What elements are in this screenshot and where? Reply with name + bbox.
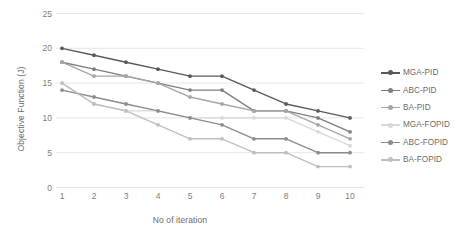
data-point [284,137,288,141]
y-tick-label: 25 [28,9,52,19]
series-abc-pid [60,60,352,133]
data-point [188,95,192,99]
data-point [188,88,192,92]
data-point [252,88,256,92]
data-point [316,123,320,127]
data-point [60,81,64,85]
data-point [284,116,288,120]
data-point [124,109,128,113]
data-point [92,102,96,106]
data-point [188,137,192,141]
data-point [348,137,352,141]
data-point [348,116,352,120]
data-point [220,74,224,78]
x-tick-label: 2 [82,191,106,201]
x-tick-label: 6 [210,191,234,201]
data-point [60,46,64,50]
legend-label: MGA-FOPID [403,120,450,129]
legend-item-ba-fopid[interactable]: BA-FOPID [381,151,450,168]
data-point [284,102,288,106]
legend-marker-icon [381,86,400,95]
series-line [62,83,350,167]
data-point [60,88,64,92]
x-tick-label: 10 [338,191,362,201]
y-tick-label: 5 [28,148,52,158]
legend-marker-icon [381,103,400,112]
data-point [92,74,96,78]
x-axis-title: No of iteration [0,215,360,225]
y-axis-title: Objective Function (J) [16,44,26,174]
legend-item-ba-pid[interactable]: BA-PID [381,99,450,116]
legend-label: ABC-PID [403,86,437,95]
data-point [316,130,320,134]
data-point [156,123,160,127]
data-point [156,67,160,71]
legend-item-mga-pid[interactable]: MGA-PID [381,64,450,81]
legend-marker-icon [381,68,400,77]
data-point [348,165,352,169]
data-point [220,116,224,120]
x-tick-label: 7 [242,191,266,201]
data-point [316,151,320,155]
series-mga-fopid [60,81,352,147]
legend-marker-icon [381,138,400,147]
data-point [252,151,256,155]
series-ba-fopid [60,81,352,168]
series-line [62,90,350,153]
y-tick-label: 0 [28,183,52,193]
data-point [316,165,320,169]
y-tick-label: 10 [28,113,52,123]
legend-item-abc-fopid[interactable]: ABC-FOPID [381,134,450,151]
data-point [92,95,96,99]
legend-label: MGA-PID [403,68,438,77]
y-tick-label: 20 [28,43,52,53]
x-tick-label: 1 [50,191,74,201]
legend-marker-icon [381,155,400,164]
data-point [220,137,224,141]
x-tick-label: 8 [274,191,298,201]
data-point [124,102,128,106]
series-ba-pid [60,60,352,140]
data-point [60,60,64,64]
data-series-group [60,46,352,168]
y-tick-label: 15 [28,78,52,88]
series-abc-fopid [60,88,352,154]
data-point [124,60,128,64]
legend-label: BA-FOPID [403,155,442,164]
data-point [348,144,352,148]
data-point [252,109,256,113]
x-tick-label: 4 [146,191,170,201]
data-point [220,102,224,106]
data-point [348,130,352,134]
data-point [316,116,320,120]
gridlines [56,14,364,188]
data-point [92,53,96,57]
legend-item-mga-fopid[interactable]: MGA-FOPID [381,116,450,133]
legend-item-abc-pid[interactable]: ABC-PID [381,81,450,98]
data-point [284,151,288,155]
chart-legend: MGA-PIDABC-PIDBA-PIDMGA-FOPIDABC-FOPIDBA… [381,64,450,168]
x-tick-label: 9 [306,191,330,201]
data-point [348,151,352,155]
data-point [188,74,192,78]
data-point [124,74,128,78]
series-line [62,83,350,146]
legend-label: BA-PID [403,103,431,112]
x-tick-label: 3 [114,191,138,201]
data-point [92,67,96,71]
data-point [252,116,256,120]
data-point [284,109,288,113]
data-point [220,88,224,92]
legend-label: ABC-FOPID [403,138,448,147]
x-tick-label: 5 [178,191,202,201]
data-point [188,116,192,120]
data-point [220,123,224,127]
data-point [156,109,160,113]
data-point [252,137,256,141]
objective-function-line-chart: 0510152025 12345678910 Objective Functio… [0,0,471,237]
data-point [316,109,320,113]
legend-marker-icon [381,120,400,129]
data-point [156,81,160,85]
